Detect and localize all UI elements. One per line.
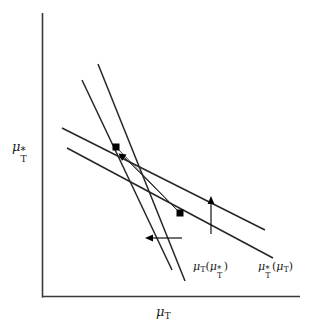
steep-shifted-line [98, 64, 185, 281]
flat-original-line [62, 128, 265, 230]
label2-sub: T [265, 272, 270, 280]
x-axis-subscript: T [164, 310, 170, 321]
vertical-shift-arrow-head [208, 196, 215, 204]
label1-close-paren: ) [224, 260, 228, 273]
y-axis-label: μ*T [12, 140, 29, 153]
label2-close-paren: ) [289, 260, 293, 273]
steep-original-line [82, 80, 172, 270]
lower-equilibrium-marker [177, 210, 184, 217]
reaction-curves-group [62, 64, 273, 281]
x-axis-label: μT [156, 305, 171, 320]
upper-equilibrium-marker [113, 144, 120, 151]
reaction-function-figure: μ*T μT μT(μ*T) μ*T(μT) [0, 0, 325, 332]
label1-arg-sub: T [217, 272, 222, 280]
label1-arg-mu: μ [210, 260, 217, 273]
y-axis-mu-symbol: μ [12, 139, 20, 154]
equilibrium-connectors-group [116, 147, 181, 214]
horizontal-shift-arrow-head [145, 235, 153, 242]
label2-mu: μ [258, 260, 265, 273]
curve-label-mu-best-response: μT(μ*T) [193, 261, 228, 274]
curve-label-mu-star-best-response: μ*T(μT) [258, 261, 293, 274]
plot-canvas [0, 0, 325, 332]
y-axis-subscript: T [20, 154, 26, 163]
